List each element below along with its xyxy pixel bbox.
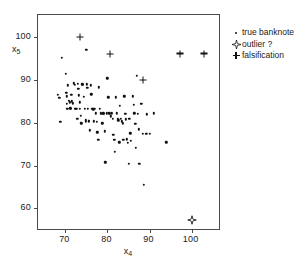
y-axis-tick bbox=[34, 37, 38, 38]
falsification-marker bbox=[106, 50, 113, 57]
data-point bbox=[70, 108, 72, 110]
plus-icon bbox=[231, 52, 241, 59]
data-point bbox=[86, 87, 88, 89]
y-axis-title-subscript: 5 bbox=[17, 48, 21, 55]
data-point bbox=[136, 75, 138, 77]
data-point bbox=[58, 97, 60, 99]
x-axis-tick-label: 90 bbox=[143, 234, 153, 244]
data-point bbox=[89, 84, 91, 86]
data-point bbox=[66, 103, 68, 105]
data-point bbox=[114, 150, 116, 152]
data-point bbox=[119, 105, 121, 107]
y-axis-tick-label: 90 bbox=[21, 74, 31, 84]
data-point bbox=[76, 117, 78, 119]
data-point bbox=[67, 84, 69, 86]
data-point bbox=[111, 117, 113, 119]
x-axis-title: x4 bbox=[124, 246, 132, 257]
x-axis-tick-label: 100 bbox=[183, 234, 199, 244]
data-point bbox=[70, 93, 72, 95]
x-axis-tick bbox=[107, 229, 108, 233]
x-axis-tick-label: 80 bbox=[101, 234, 111, 244]
data-point bbox=[96, 131, 98, 133]
data-point bbox=[115, 96, 117, 98]
y-axis-tick-label: 80 bbox=[21, 117, 31, 127]
outlier-marker bbox=[187, 215, 196, 224]
data-point bbox=[87, 108, 89, 110]
data-point bbox=[65, 95, 67, 97]
data-point bbox=[118, 141, 120, 143]
data-point bbox=[95, 121, 97, 123]
y-axis-title: x5 bbox=[12, 44, 20, 55]
legend: true banknoteoutlier ?falsification bbox=[231, 27, 294, 62]
x-axis-tick-label: 70 bbox=[59, 234, 69, 244]
data-point bbox=[84, 108, 86, 110]
data-point bbox=[94, 112, 96, 114]
data-point bbox=[126, 138, 128, 140]
data-point bbox=[78, 101, 80, 103]
data-point bbox=[137, 128, 139, 130]
scatter-plot-figure: x5 x4 true banknoteoutlier ?falsificatio… bbox=[0, 0, 295, 263]
data-point bbox=[88, 120, 90, 122]
y-axis-tick-label: 60 bbox=[21, 202, 31, 212]
data-point bbox=[123, 95, 125, 97]
data-point bbox=[65, 92, 67, 94]
data-point bbox=[153, 112, 155, 114]
data-point bbox=[165, 141, 167, 143]
data-point bbox=[125, 118, 127, 120]
data-point bbox=[80, 122, 82, 124]
data-point bbox=[135, 146, 137, 148]
data-point bbox=[79, 115, 81, 117]
x-axis-tick bbox=[150, 229, 151, 233]
data-point bbox=[128, 117, 130, 119]
data-point bbox=[148, 133, 150, 135]
data-point bbox=[94, 108, 96, 110]
falsification-marker bbox=[201, 50, 208, 57]
four-point-star-icon bbox=[231, 40, 241, 49]
plot-frame bbox=[37, 14, 220, 230]
falsification-marker bbox=[139, 77, 146, 84]
falsification-marker bbox=[77, 34, 84, 41]
data-point bbox=[107, 96, 109, 98]
data-point bbox=[126, 141, 128, 143]
legend-item-label: outlier ? bbox=[241, 39, 272, 51]
data-point bbox=[127, 162, 129, 164]
falsification-marker bbox=[176, 50, 183, 57]
data-point bbox=[113, 138, 115, 140]
y-axis-tick-label: 70 bbox=[21, 160, 31, 170]
data-point bbox=[101, 122, 103, 124]
data-point bbox=[65, 72, 67, 74]
data-point bbox=[83, 96, 85, 98]
data-point bbox=[132, 104, 134, 106]
data-point bbox=[140, 102, 142, 104]
data-point bbox=[142, 132, 144, 134]
legend-item: falsification bbox=[231, 50, 294, 62]
data-point bbox=[130, 140, 132, 142]
data-point bbox=[122, 139, 124, 141]
data-point bbox=[121, 122, 123, 124]
data-point bbox=[138, 163, 140, 165]
data-point bbox=[72, 102, 74, 104]
data-point bbox=[79, 108, 81, 110]
data-point bbox=[133, 112, 135, 114]
data-point bbox=[132, 95, 134, 97]
data-point bbox=[145, 133, 147, 135]
dot-icon bbox=[231, 32, 241, 34]
data-point bbox=[134, 123, 136, 125]
data-point bbox=[142, 184, 144, 186]
y-axis-tick bbox=[34, 123, 38, 124]
data-point bbox=[97, 139, 99, 141]
legend-item-label: falsification bbox=[241, 50, 284, 62]
y-axis-tick bbox=[34, 208, 38, 209]
legend-item: outlier ? bbox=[231, 39, 294, 51]
data-point bbox=[124, 113, 126, 115]
data-point bbox=[77, 87, 79, 89]
data-point bbox=[90, 93, 92, 95]
plot-area bbox=[38, 15, 219, 229]
y-axis-tick bbox=[34, 166, 38, 167]
y-axis-tick bbox=[34, 80, 38, 81]
data-point bbox=[77, 83, 79, 85]
data-point bbox=[78, 94, 80, 96]
data-point bbox=[129, 132, 131, 134]
data-point bbox=[85, 49, 87, 51]
legend-item: true banknote bbox=[231, 27, 294, 39]
